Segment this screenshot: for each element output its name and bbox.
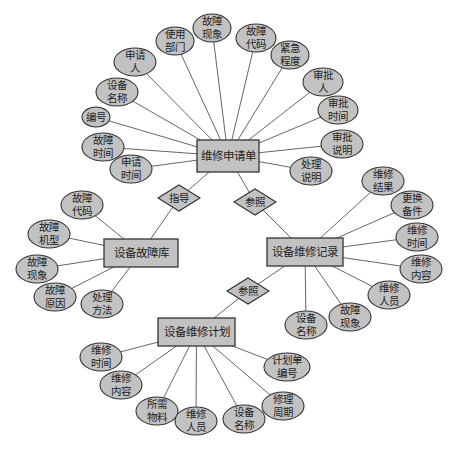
attribute-ellipse (396, 223, 438, 251)
entity-box-repair_request (197, 140, 259, 172)
attribute-ellipse (34, 283, 76, 311)
attribute-ellipse (96, 78, 138, 106)
relationship-diamond-ref2 (227, 278, 269, 304)
attribute-ellipse (321, 130, 363, 158)
entity-box-repair_record (267, 238, 343, 266)
attribute-ellipse (114, 48, 156, 76)
attribute-ellipse (80, 343, 122, 371)
attribute-ellipse (28, 220, 70, 248)
attribute-line (175, 41, 228, 156)
attribute-ellipse (110, 155, 152, 183)
relationship-diamond-ref1 (234, 189, 276, 215)
attribute-ellipse (236, 24, 276, 52)
attribute-ellipse (290, 157, 332, 185)
attribute-ellipse (271, 41, 309, 69)
shapes (16, 14, 442, 435)
attribute-ellipse (193, 14, 231, 42)
attribute-ellipse (400, 255, 442, 283)
attribute-ellipse (262, 392, 304, 420)
attribute-line (212, 28, 228, 156)
er-diagram-canvas (0, 0, 456, 456)
er-diagram: 维修申请单设备故障库设备维修记录设备维修计划指导参照参照编号故障 时间申请 时间… (0, 0, 456, 456)
attribute-ellipse (391, 191, 433, 219)
attribute-ellipse (303, 68, 343, 96)
attribute-ellipse (318, 96, 358, 124)
attribute-ellipse (264, 353, 310, 381)
attribute-ellipse (156, 27, 194, 55)
attribute-ellipse (368, 281, 410, 309)
relationship-diamond-guide (158, 185, 200, 211)
attribute-ellipse (61, 191, 103, 219)
attribute-ellipse (329, 303, 371, 331)
attribute-ellipse (223, 405, 265, 433)
attribute-ellipse (16, 255, 58, 283)
entity-box-repair_plan (158, 318, 235, 346)
attribute-ellipse (285, 311, 327, 339)
entity-box-fault_db (104, 239, 178, 267)
attribute-ellipse (82, 107, 110, 127)
attribute-ellipse (81, 290, 123, 318)
attribute-line (228, 38, 256, 156)
attribute-ellipse (136, 397, 178, 425)
attribute-ellipse (362, 167, 404, 195)
attribute-ellipse (100, 371, 142, 399)
attribute-ellipse (175, 407, 217, 435)
attribute-ellipse (82, 133, 124, 161)
